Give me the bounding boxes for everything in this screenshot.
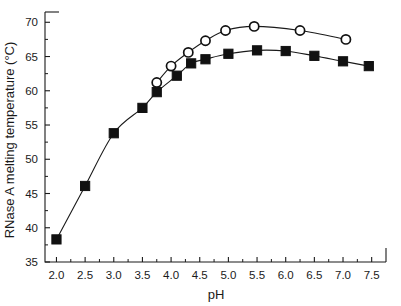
data-series	[52, 22, 374, 244]
data-point-square	[224, 49, 233, 58]
y-tick-label: 70	[25, 16, 38, 28]
data-point-circle	[221, 26, 230, 35]
x-tick-label: 7.0	[335, 269, 351, 281]
axis-spines	[45, 12, 386, 262]
data-point-circle	[341, 35, 350, 44]
x-tick-label: 5.5	[249, 269, 265, 281]
data-point-square	[310, 51, 319, 60]
data-point-circle	[166, 62, 175, 71]
x-tick-label: 2.5	[77, 269, 93, 281]
series-line	[56, 50, 368, 239]
plot-canvas: 35404550556065702.02.53.03.54.04.55.05.5…	[0, 0, 401, 306]
axes	[45, 12, 386, 262]
x-tick-label: 3.0	[106, 269, 122, 281]
series-filled-squares	[52, 46, 374, 244]
data-point-square	[109, 129, 118, 138]
x-tick-label: 3.5	[134, 269, 150, 281]
data-point-square	[201, 55, 210, 64]
y-tick-label: 55	[25, 119, 38, 131]
x-tick-label: 6.0	[278, 269, 294, 281]
x-axis-title: pH	[208, 287, 225, 302]
data-point-square	[52, 235, 61, 244]
data-point-circle	[250, 22, 259, 31]
data-point-square	[338, 57, 347, 66]
data-point-square	[252, 46, 261, 55]
x-tick-label: 2.0	[48, 269, 64, 281]
data-point-square	[187, 59, 196, 68]
y-tick-label: 60	[25, 85, 38, 97]
data-point-square	[281, 46, 290, 55]
y-tick-label: 40	[25, 222, 38, 234]
data-point-circle	[184, 48, 193, 57]
chart-figure: 35404550556065702.02.53.03.54.04.55.05.5…	[0, 0, 401, 306]
y-tick-label: 50	[25, 153, 38, 165]
x-tick-label: 4.0	[163, 269, 179, 281]
y-axis-title: RNase A melting temperature (°C)	[2, 42, 17, 239]
x-tick-label: 6.5	[306, 269, 322, 281]
data-point-square	[81, 181, 90, 190]
data-point-square	[364, 62, 373, 71]
data-point-circle	[152, 78, 161, 87]
y-tick-label: 45	[25, 188, 38, 200]
x-tick-label: 4.5	[192, 269, 208, 281]
x-tick-label: 7.5	[364, 269, 380, 281]
data-point-square	[172, 71, 181, 80]
x-tick-label: 5.0	[220, 269, 236, 281]
data-point-circle	[201, 36, 210, 45]
data-point-square	[138, 103, 147, 112]
y-tick-label: 35	[25, 256, 38, 268]
y-tick-label: 65	[25, 51, 38, 63]
data-point-circle	[295, 26, 304, 35]
data-point-square	[152, 88, 161, 97]
